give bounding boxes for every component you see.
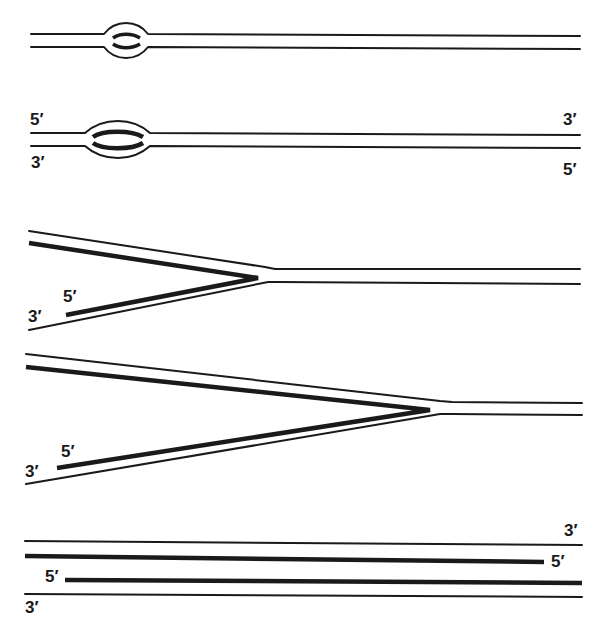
label-5prime-new-strand: 5′: [61, 442, 75, 461]
label-5prime-new-top-right: 5′: [551, 552, 565, 571]
label-5prime-new-bottom-left: 5′: [45, 567, 59, 586]
stage-3-replication-fork: 5′ 3′: [28, 231, 580, 330]
new-strand-bottom: [93, 143, 143, 148]
new-strand-bottom: [113, 44, 140, 48]
label-5prime-new-strand: 5′: [63, 287, 77, 306]
new-strand-top: [113, 34, 140, 38]
new-strand-bottom: [65, 580, 582, 583]
label-3prime-bottom-left: 3′: [25, 598, 39, 617]
template-strand-bottom: [26, 414, 582, 484]
stage-1-small-bubble: [31, 23, 580, 58]
label-3prime-template: 3′: [28, 307, 42, 326]
parental-strand-top: [31, 23, 580, 36]
new-strand-top: [25, 556, 544, 562]
label-5prime-top-left: 5′: [30, 110, 44, 129]
stage-5-daughter-duplexes: 3′ 5′ 5′ 3′: [25, 521, 582, 617]
parental-strand-top: [25, 541, 582, 545]
label-3prime-template: 3′: [25, 462, 39, 481]
parental-strand-bottom: [25, 594, 582, 597]
stage-2-large-bubble: 5′ 3′ 3′ 5′: [30, 110, 580, 179]
label-3prime-top-right: 3′: [564, 521, 578, 540]
new-strands: [26, 367, 430, 468]
parental-strand-bottom: [31, 47, 580, 58]
template-strand-top: [29, 231, 580, 269]
new-strand-top: [93, 132, 143, 137]
dna-replication-diagram: 5′ 3′ 3′ 5′ 5′ 3′ 5′ 3′ 3′ 5′ 5′ 3′: [0, 0, 611, 642]
stage-4-replication-fork: 5′ 3′: [25, 354, 582, 484]
label-5prime-bottom-right: 5′: [563, 160, 577, 179]
label-3prime-top-right: 3′: [563, 110, 577, 129]
label-3prime-bottom-left: 3′: [31, 153, 45, 172]
